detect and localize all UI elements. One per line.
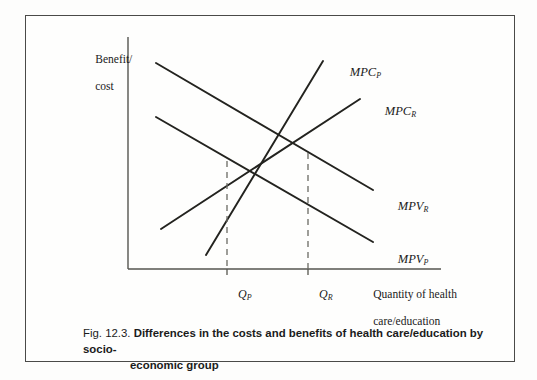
curve-label-mpv-p-sub: P <box>423 258 428 267</box>
curve-label-mpc-p-text: MPC <box>350 65 376 79</box>
y-axis-title-line2: cost <box>95 80 114 92</box>
curve-label-mpv-p-text: MPV <box>398 252 424 266</box>
figure-frame: Benefit/ cost Quantity of health care/ed… <box>25 15 515 362</box>
curve-label-mpc-r-sub: R <box>411 110 416 119</box>
tick-label-qp: QP <box>220 273 252 315</box>
curve-label-mpv-r: MPVR <box>379 184 428 228</box>
tick-label-qr: QR <box>301 273 333 315</box>
curve-label-mpv-p: MPVP <box>379 237 428 281</box>
tick-label-qp-sub: P <box>247 293 252 302</box>
figure-caption: Fig. 12.3. Differences in the costs and … <box>83 325 513 374</box>
y-axis-title: Benefit/ cost <box>78 39 132 107</box>
curve-mpv-p <box>156 117 373 242</box>
y-axis-title-line1: Benefit/ <box>95 53 132 65</box>
tick-label-qr-sub: R <box>328 293 333 302</box>
curve-label-mpc-r: MPCR <box>366 89 416 133</box>
tick-label-qp-text: Q <box>238 287 247 301</box>
curve-mpc-p <box>206 61 323 255</box>
curve-label-mpc-p: MPCP <box>331 50 381 94</box>
curve-label-mpc-p-sub: P <box>376 71 381 80</box>
curve-label-mpv-r-text: MPV <box>398 199 424 213</box>
x-axis-title-line1: Quantity of health <box>373 288 457 300</box>
figure-caption-line2: economic group <box>130 357 513 373</box>
figure-caption-number: Fig. 12.3. <box>83 327 131 339</box>
tick-label-qr-text: Q <box>319 287 328 301</box>
curve-label-mpv-r-sub: R <box>423 205 428 214</box>
figure-root: Benefit/ cost Quantity of health care/ed… <box>0 0 537 380</box>
curve-label-mpc-r-text: MPC <box>385 104 411 118</box>
figure-caption-line1: Differences in the costs and benefits of… <box>83 327 483 355</box>
